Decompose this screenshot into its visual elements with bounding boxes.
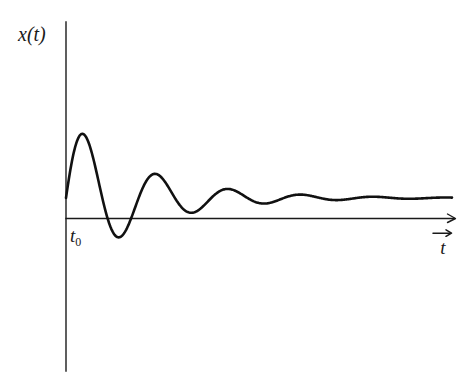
x-axis-label-group: t: [430, 228, 456, 257]
t-zero-label-subscript: 0: [75, 235, 81, 249]
t-zero-label: t0: [70, 226, 81, 248]
plot-canvas: [0, 0, 466, 385]
x-axis-label: t: [430, 238, 456, 257]
figure-root: x(t) t0 t: [0, 0, 466, 385]
damped-oscillation-curve: [66, 134, 452, 238]
y-axis-label: x(t): [18, 24, 46, 44]
x-axis-label-arrow-icon: [432, 228, 454, 237]
